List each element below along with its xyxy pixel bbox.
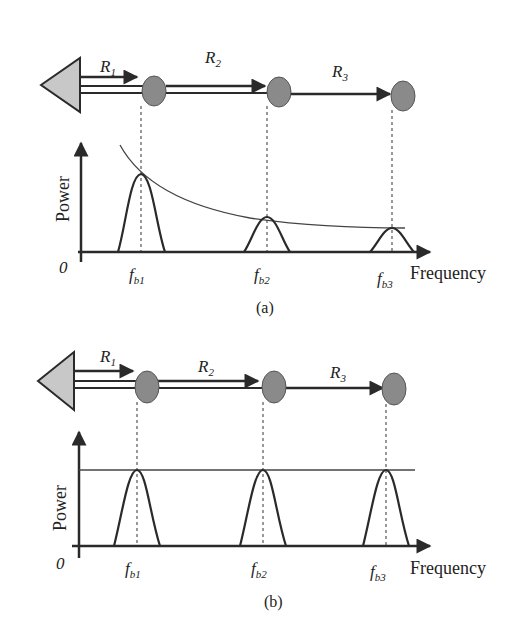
target-icon	[262, 371, 286, 403]
x-axis-label: Frequency	[410, 558, 486, 578]
target-icon	[135, 371, 159, 403]
target-icon	[142, 76, 166, 106]
range-label-r1: R1	[99, 347, 116, 368]
caption-a: (a)	[256, 299, 274, 317]
freq-label-fb1: fb1	[129, 265, 145, 286]
radar-icon	[41, 58, 80, 112]
range-label-r2: R2	[204, 48, 221, 69]
freq-label-fb3: fb3	[377, 269, 393, 290]
range-label-r3: R3	[331, 62, 348, 83]
y-axis-label: Power	[50, 485, 70, 531]
range-label-r2: R2	[197, 357, 214, 378]
freq-label-fb1: fb1	[125, 559, 141, 580]
origin-label: 0	[56, 554, 65, 573]
freq-label-fb2: fb2	[254, 265, 270, 286]
range-label-r3: R3	[329, 363, 346, 384]
freq-label-fb3: fb3	[370, 562, 386, 583]
panel-a: R1 R2 R3 Power 0 fb1 fb2 fb3 Frequency (…	[41, 48, 486, 317]
x-axis-label: Frequency	[410, 263, 486, 283]
freq-label-fb2: fb2	[251, 559, 267, 580]
caption-b: (b)	[264, 593, 283, 611]
target-icon	[391, 81, 415, 111]
range-label-r1: R1	[99, 57, 116, 78]
origin-label: 0	[59, 258, 68, 277]
target-icon	[382, 373, 406, 405]
y-axis-label: Power	[53, 176, 73, 222]
diagram-canvas: R1 R2 R3 Power 0 fb1 fb2 fb3 Frequency (…	[0, 0, 532, 640]
panel-b: R1 R2 R3 Power 0 fb1 fb2 fb3 Frequency (…	[38, 347, 486, 611]
radar-icon	[38, 352, 74, 410]
target-icon	[267, 77, 291, 107]
envelope-curve	[120, 145, 405, 228]
